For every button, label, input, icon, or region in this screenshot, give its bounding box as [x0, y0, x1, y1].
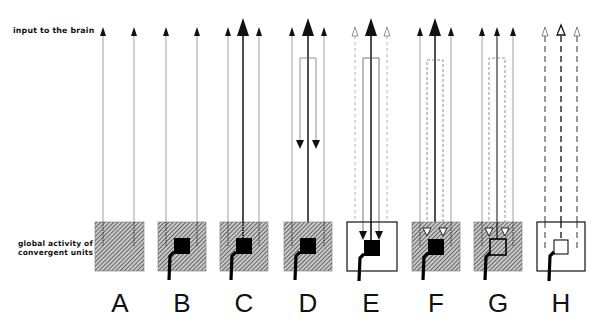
open-arrowhead-icon	[352, 27, 358, 36]
panel-b: B	[158, 27, 206, 318]
svg-text:F: F	[428, 288, 444, 318]
convergence-diagram: input to the brain global activity of co…	[0, 0, 599, 327]
down-arrowhead-icon	[296, 140, 304, 149]
large-arrowhead-icon	[237, 18, 249, 36]
panel-a: A	[95, 27, 144, 318]
svg-text:G: G	[488, 288, 508, 318]
panel-g: G	[474, 27, 522, 318]
diagram-svg: A B C	[0, 0, 599, 327]
svg-text:B: B	[173, 288, 190, 318]
svg-text:C: C	[235, 288, 254, 318]
panel-c: C	[220, 18, 268, 318]
arrowhead-icon	[131, 27, 137, 36]
panel-e: E	[347, 18, 397, 318]
down-arrowhead-icon	[312, 140, 320, 149]
panel-h: H	[537, 25, 585, 318]
hatched-box	[95, 222, 144, 271]
panel-d: D	[284, 18, 332, 318]
svg-text:E: E	[362, 288, 379, 318]
svg-text:H: H	[552, 288, 571, 318]
core-unit-filled	[174, 238, 190, 254]
panel-letter-a: A	[111, 288, 129, 318]
panel-f: F	[412, 18, 460, 318]
svg-text:D: D	[299, 288, 318, 318]
arrowhead-icon	[100, 27, 106, 36]
